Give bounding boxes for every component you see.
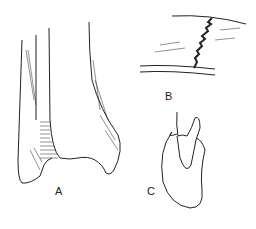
panel-label-a: A (55, 185, 62, 197)
panel-label-b: B (165, 90, 172, 102)
illustration (0, 0, 256, 229)
panel-b-suture-drawing (140, 16, 246, 75)
figure-canvas: A B C (0, 0, 256, 229)
panel-a-bone-drawing (18, 22, 120, 183)
panel-c-tooth-drawing (162, 112, 205, 208)
panel-label-c: C (147, 185, 155, 197)
